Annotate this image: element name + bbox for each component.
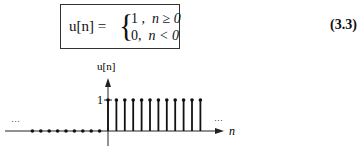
stem-dot bbox=[56, 129, 60, 133]
plot-area: 1u[n]n······ bbox=[5, 60, 235, 146]
stem-dot bbox=[140, 98, 144, 102]
y-axis-arrow-icon bbox=[105, 78, 111, 87]
stem-dot bbox=[47, 129, 51, 133]
stem-dot bbox=[165, 98, 169, 102]
x-axis-arrow-icon bbox=[215, 128, 224, 134]
stem-dot bbox=[106, 98, 110, 102]
stem-dot bbox=[131, 98, 135, 102]
stem-dot bbox=[173, 98, 177, 102]
stem-dot bbox=[73, 129, 77, 133]
x-axis-label: n bbox=[229, 124, 235, 138]
stem-dot bbox=[148, 98, 152, 102]
y-tick-label: 1 bbox=[97, 93, 103, 107]
stem-dot bbox=[123, 98, 127, 102]
stem-dot bbox=[199, 98, 203, 102]
stem-dot bbox=[182, 98, 186, 102]
stem-dot bbox=[31, 129, 35, 133]
stem-dot bbox=[39, 129, 43, 133]
ellipsis-left: ··· bbox=[11, 116, 20, 126]
stem-dot bbox=[157, 98, 161, 102]
y-axis-label: u[n] bbox=[97, 60, 115, 72]
ellipsis-right: ··· bbox=[214, 115, 223, 125]
stem-dot bbox=[64, 129, 68, 133]
stem-dot bbox=[89, 129, 93, 133]
stem-dot bbox=[81, 129, 85, 133]
stem-dot bbox=[115, 98, 119, 102]
stem-dot bbox=[98, 129, 102, 133]
stem-dot bbox=[190, 98, 194, 102]
unit-step-stem-plot: 1u[n]n······ bbox=[0, 0, 362, 159]
